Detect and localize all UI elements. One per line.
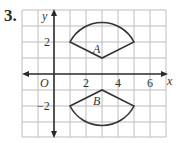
shape-b-label: B (93, 94, 101, 108)
x-tick-6: 6 (147, 76, 153, 90)
origin-label: O (40, 76, 49, 90)
y-axis-label: y (41, 9, 48, 23)
y-tick-neg2: −2 (37, 99, 50, 113)
x-tick-2: 2 (83, 76, 89, 90)
coordinate-grid: y x O 2 4 6 2 −2 A B (0, 0, 177, 143)
shape-a-label: A (92, 42, 101, 56)
y-tick-2: 2 (44, 35, 50, 49)
x-tick-4: 4 (115, 76, 121, 90)
x-axis-label: x (166, 74, 173, 88)
